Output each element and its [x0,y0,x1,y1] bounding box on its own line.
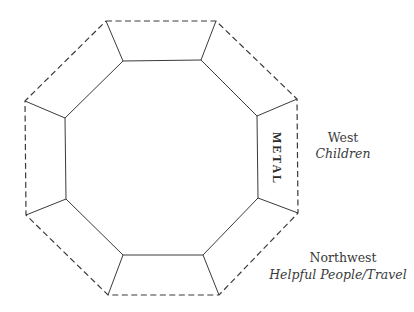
northwest-direction-label: Northwest [298,250,388,265]
northwest-area-label: Helpful People/Travel [268,267,408,282]
west-area-label: Children [303,146,383,161]
inner-octagon [65,60,258,255]
west-direction-label: West [313,130,373,145]
metal-segment-label: METAL [269,131,284,187]
